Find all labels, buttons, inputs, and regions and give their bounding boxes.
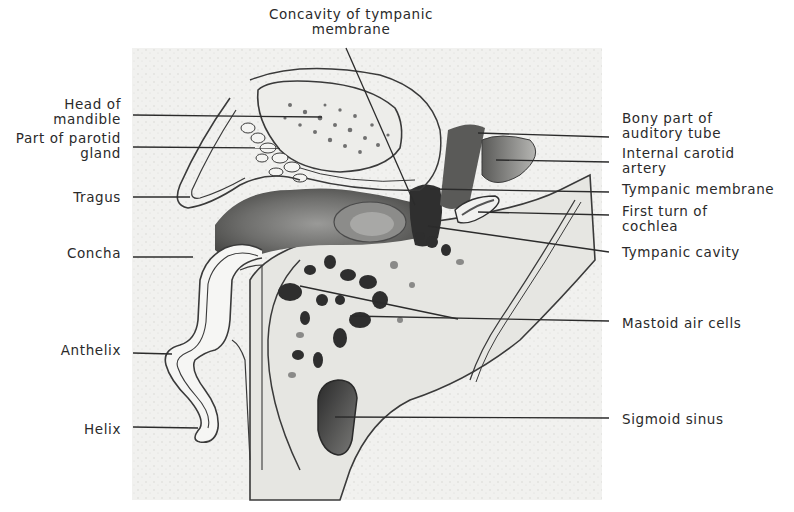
label-tympanic-cavity: Tympanic cavity — [622, 245, 792, 260]
label-anthelix: Anthelix — [0, 343, 121, 358]
label-sigmoid-sinus: Sigmoid sinus — [622, 412, 792, 427]
label-concavity-of-tympanic-membrane: Concavity of tympanic membrane — [262, 7, 440, 37]
label-first-turn-of-cochlea: First turn of cochlea — [622, 204, 792, 234]
label-tragus: Tragus — [0, 190, 121, 205]
label-mastoid-air-cells: Mastoid air cells — [622, 316, 792, 331]
label-tympanic-membrane: Tympanic membrane — [622, 182, 792, 197]
label-head-of-mandible: Head of mandible — [0, 97, 121, 127]
tympanic-cavity-shape — [410, 184, 443, 246]
label-internal-carotid-artery: Internal carotid artery — [622, 146, 792, 176]
label-helix: Helix — [0, 422, 121, 437]
label-bony-part-of-auditory-tube: Bony part of auditory tube — [622, 111, 792, 141]
label-part-of-parotid-gland: Part of parotid gland — [0, 131, 121, 161]
label-concha: Concha — [0, 246, 121, 261]
